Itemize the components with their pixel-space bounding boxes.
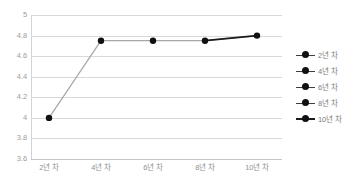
x-tick-label: 8년 차 [195,163,214,172]
line-chart: 5 4.8 4.6 4.4 4.2 4 3.8 3.6 [0,0,357,191]
y-tick-label: 4.4 [17,73,27,81]
legend-marker-icon [296,82,315,93]
legend-item[interactable]: 2년 차 [296,47,356,63]
series-line [49,36,257,118]
x-tick-label: 2년 차 [39,163,58,172]
y-tick-label: 3.8 [17,134,27,142]
legend-item-label: 4년 차 [315,67,337,76]
x-tick-label: 10년 차 [245,163,268,172]
y-tick-label: 4.8 [17,32,27,40]
legend-marker-icon [296,50,315,61]
legend-marker-icon [296,114,315,125]
legend-item-label: 10년 차 [315,115,341,124]
legend-item[interactable]: 6년 차 [296,79,356,95]
y-tick-label: 4 [23,114,27,122]
x-axis: 2년 차 4년 차 6년 차 8년 차 10년 차 [31,163,282,183]
legend-item[interactable]: 4년 차 [296,63,356,79]
data-point [254,32,260,38]
legend-marker-icon [296,98,315,109]
data-point [150,38,156,44]
y-axis: 5 4.8 4.6 4.4 4.2 4 3.8 3.6 [0,0,30,191]
legend-marker-icon [296,66,315,77]
legend-item-label: 2년 차 [315,51,337,60]
legend-item-label: 6년 차 [315,83,337,92]
y-tick-label: 3.6 [17,155,27,163]
series-line-emphasis [205,36,257,41]
x-tick-label: 4년 차 [91,163,110,172]
x-tick-label: 6년 차 [143,163,162,172]
legend-item[interactable]: 10년 차 [296,111,356,127]
data-point [98,38,104,44]
legend-item[interactable]: 8년 차 [296,95,356,111]
data-point [202,38,208,44]
legend-item-label: 8년 차 [315,99,337,108]
y-tick-label: 4.6 [17,52,27,60]
y-tick-label: 4.2 [17,93,27,101]
chart-legend: 2년 차 4년 차 6년 차 8년 차 10년 차 [296,47,356,127]
y-tick-label: 5 [23,11,27,19]
data-point [46,115,52,121]
plot-area: 5 4.8 4.6 4.4 4.2 4 3.8 3.6 [0,0,290,191]
